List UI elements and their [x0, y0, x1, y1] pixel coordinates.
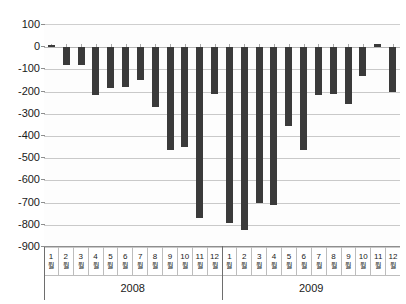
x-axis-month-number: 5: [108, 252, 112, 261]
year-group-separator: [222, 246, 223, 300]
y-axis-labels: 1000-100-200-300-400-500-600-700-800-900: [0, 24, 40, 246]
x-axis-category-cell: 2월: [59, 247, 74, 275]
x-axis-month-unit: 월: [331, 261, 337, 270]
x-axis-month-number: 12: [210, 252, 219, 261]
y-axis-tick-mark: [41, 157, 45, 158]
x-axis-category-cell: 6월: [297, 247, 312, 275]
x-axis-month-unit: 월: [345, 261, 351, 270]
x-axis-month-unit: 월: [107, 261, 113, 270]
y-axis-tick-mark: [41, 113, 45, 114]
x-axis-category-cell: 2월: [237, 247, 252, 275]
x-axis-category-cell: 8월: [148, 247, 163, 275]
y-axis-tick-mark: [41, 68, 45, 69]
bar: [315, 47, 322, 95]
x-axis-month-number: 9: [168, 252, 172, 261]
bar: [241, 47, 248, 230]
x-axis-category-cell: 1월: [223, 247, 238, 275]
gridline: [44, 180, 400, 181]
y-axis-tick-mark: [41, 46, 45, 47]
x-axis-month-number: 7: [316, 252, 320, 261]
x-axis-month-unit: 월: [316, 261, 322, 270]
bar: [300, 47, 307, 150]
bar: [122, 47, 129, 87]
bar-chart: 1000-100-200-300-400-500-600-700-800-900…: [0, 0, 406, 304]
x-axis-month-number: 5: [287, 252, 291, 261]
x-axis-month-unit: 월: [152, 261, 158, 270]
x-axis-month-unit: 월: [226, 261, 232, 270]
x-axis-category-cell: 8월: [327, 247, 342, 275]
x-axis-month-number: 11: [196, 252, 204, 261]
x-axis-month-unit: 월: [63, 261, 69, 270]
x-axis-month-unit: 월: [271, 261, 277, 270]
x-axis-month-unit: 월: [390, 261, 396, 270]
y-axis-tick-label: -300: [0, 108, 40, 119]
x-axis-month-unit: 월: [256, 261, 262, 270]
x-axis-category-cell: 12월: [208, 247, 223, 275]
x-axis-category-cell: 5월: [282, 247, 297, 275]
bar: [107, 47, 114, 88]
x-axis-month-number: 4: [272, 252, 276, 261]
y-axis-tick-label: -400: [0, 130, 40, 141]
bar: [167, 47, 174, 150]
x-axis-month-unit: 월: [360, 261, 366, 270]
x-axis-month-unit: 월: [301, 261, 307, 270]
x-axis-month-unit: 월: [182, 261, 188, 270]
bar: [345, 47, 352, 104]
x-axis-month-number: 8: [153, 252, 157, 261]
bar: [181, 47, 188, 147]
x-axis-month-number: 8: [331, 252, 335, 261]
x-axis-month-number: 12: [389, 252, 398, 261]
bar: [152, 47, 159, 107]
bar: [330, 47, 337, 94]
x-axis-category-cell: 3월: [252, 247, 267, 275]
x-axis-month-unit: 월: [48, 261, 54, 270]
x-axis-month-number: 7: [138, 252, 142, 261]
x-axis-category-cell: 6월: [118, 247, 133, 275]
x-axis-month-number: 9: [346, 252, 350, 261]
x-axis-category-cell: 4월: [267, 247, 282, 275]
bar: [389, 47, 396, 91]
y-axis-tick-mark: [41, 246, 45, 247]
x-axis-month-unit: 월: [167, 261, 173, 270]
bar: [270, 47, 277, 205]
x-axis-category-cell: 11월: [371, 247, 386, 275]
bar: [137, 47, 144, 80]
x-axis-month-number: 2: [242, 252, 246, 261]
x-axis-category-cell: 10월: [356, 247, 371, 275]
x-axis-category-cell: 4월: [89, 247, 104, 275]
bar: [211, 47, 218, 94]
x-axis-month-unit: 월: [122, 261, 128, 270]
x-axis-category-cell: 11월: [193, 247, 208, 275]
bar: [256, 47, 263, 202]
x-axis-month-number: 10: [180, 252, 189, 261]
bar: [78, 47, 85, 64]
x-axis-year-label: 2008: [44, 276, 223, 300]
x-axis-month-unit: 월: [78, 261, 84, 270]
x-axis-month-number: 10: [359, 252, 368, 261]
x-axis-month-number: 3: [78, 252, 82, 261]
x-axis-month-number: 6: [123, 252, 127, 261]
x-axis-month-unit: 월: [212, 261, 218, 270]
x-axis-month-number: 3: [257, 252, 261, 261]
y-axis-tick-label: -900: [0, 241, 40, 252]
x-axis-month-number: 4: [93, 252, 97, 261]
plot-area: [44, 24, 400, 246]
y-axis-tick-mark: [41, 24, 45, 25]
gridline: [44, 203, 400, 204]
bar: [226, 47, 233, 222]
y-axis-tick-label: -600: [0, 174, 40, 185]
bar: [196, 47, 203, 218]
x-axis-category-cell: 12월: [386, 247, 400, 275]
gridline: [44, 158, 400, 159]
x-axis-category-cell: 9월: [163, 247, 178, 275]
bar: [374, 44, 381, 47]
x-axis-month-unit: 월: [197, 261, 203, 270]
x-axis-category-cell: 9월: [342, 247, 357, 275]
y-axis-tick-mark: [41, 91, 45, 92]
y-axis-tick-label: 100: [0, 19, 40, 30]
gridline: [44, 136, 400, 137]
x-axis-category-cell: 7월: [312, 247, 327, 275]
y-axis-tick-label: -200: [0, 86, 40, 97]
x-axis-month-unit: 월: [137, 261, 143, 270]
bar: [63, 47, 70, 65]
